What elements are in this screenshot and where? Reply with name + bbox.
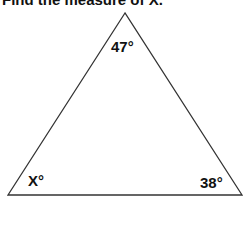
angle-label-top: 47° (111, 38, 134, 55)
angle-label-bottom-right: 38° (200, 174, 223, 191)
angle-label-bottom-left: X° (28, 172, 44, 189)
